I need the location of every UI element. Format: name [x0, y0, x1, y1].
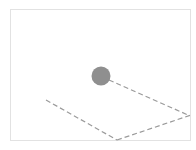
- ball-circle: [92, 67, 111, 86]
- dashed-line-left-to-bottom: [46, 100, 117, 140]
- dashed-line-bottom-to-right: [117, 115, 191, 140]
- dashed-line-ball-to-right: [109, 80, 188, 115]
- dashed-lines: [46, 80, 191, 140]
- diagram-canvas: [0, 0, 196, 150]
- diagram-svg: [0, 0, 196, 150]
